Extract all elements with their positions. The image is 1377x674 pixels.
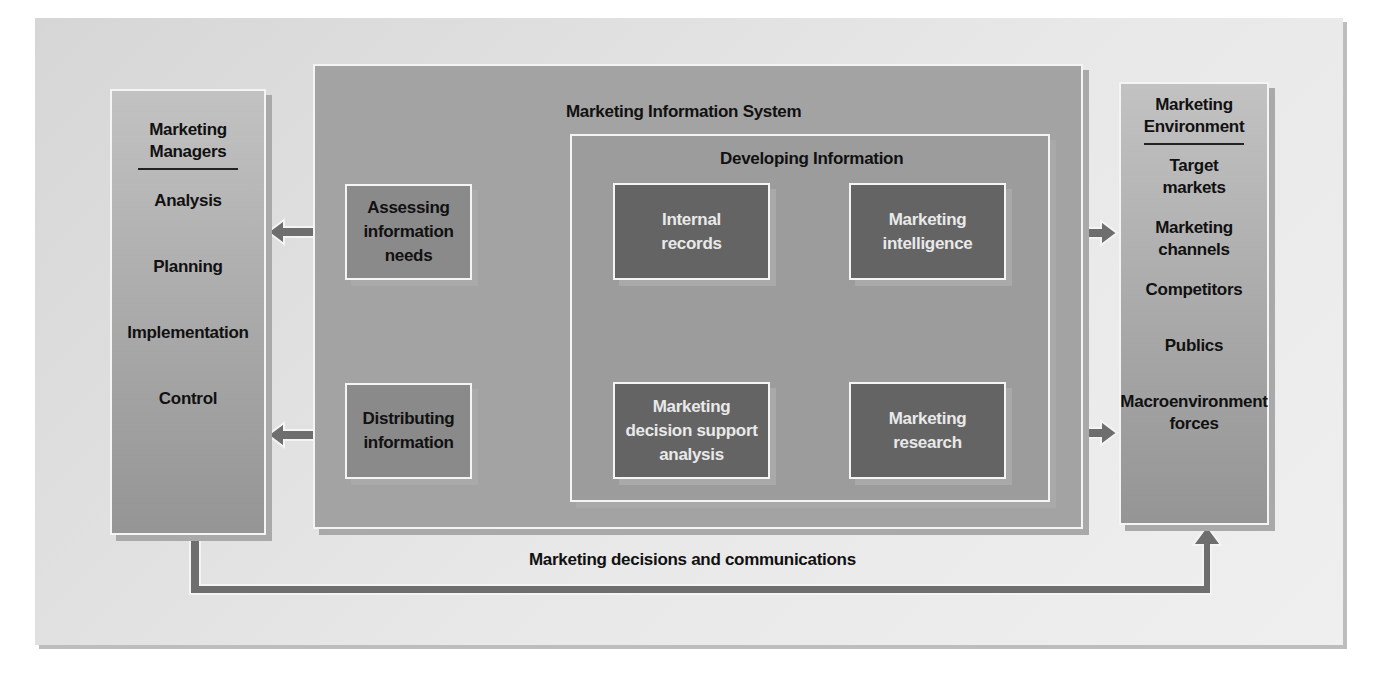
marketing-managers-panel: Marketing Managers Analysis Planning Imp…	[110, 89, 266, 535]
managers-item-planning: Planning	[153, 256, 222, 278]
managers-item-implementation: Implementation	[127, 322, 248, 344]
assessing-information-needs-box: Assessing information needs	[345, 184, 472, 280]
developing-information-label: Developing Information	[720, 149, 903, 169]
marketing-environment-panel: Marketing Environment Target markets Mar…	[1119, 82, 1269, 525]
environment-title-underline	[1144, 143, 1244, 145]
managers-item-control: Control	[159, 388, 217, 410]
environment-item-macroenvironment-forces: Macroenvironment forces	[1120, 391, 1267, 435]
environment-title: Marketing Environment	[1144, 94, 1245, 138]
managers-item-analysis: Analysis	[154, 190, 222, 212]
marketing-intelligence-box: Marketing intelligence	[849, 183, 1006, 280]
environment-item-publics: Publics	[1165, 335, 1223, 357]
decisions-communications-label: Marketing decisions and communications	[529, 550, 856, 570]
environment-item-marketing-channels: Marketing channels	[1155, 217, 1233, 261]
marketing-decision-support-box: Marketing decision support analysis	[613, 382, 770, 479]
environment-item-target-markets: Target markets	[1162, 155, 1225, 199]
marketing-research-box: Marketing research	[849, 382, 1006, 479]
environment-item-competitors: Competitors	[1146, 279, 1243, 301]
managers-title: Marketing Managers	[149, 119, 227, 163]
managers-title-underline	[138, 168, 238, 170]
mis-label: Marketing Information System	[566, 102, 801, 122]
distributing-information-box: Distributing information	[345, 383, 472, 479]
internal-records-box: Internal records	[613, 183, 770, 280]
